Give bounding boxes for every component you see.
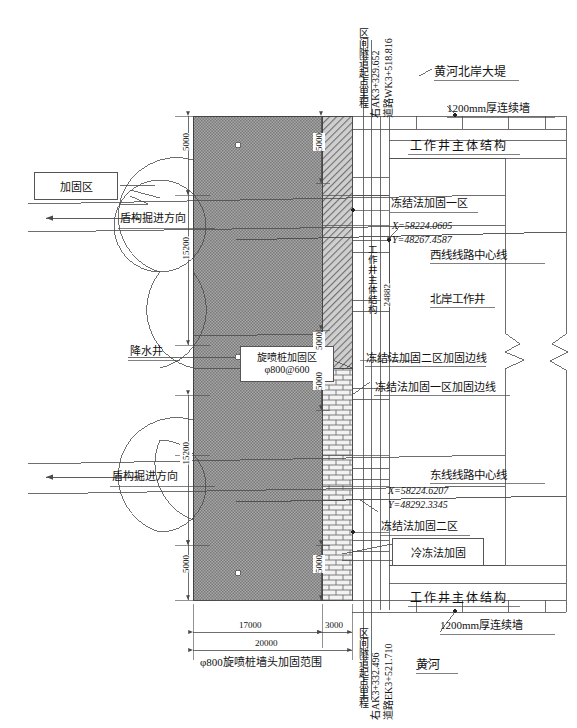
callout-freeze-method-label: 冷冻法加固: [411, 544, 466, 560]
label-north-bank-shaft: 北岸工作井: [430, 293, 485, 305]
chainage-top-line1: 区间隧道起点里程: [357, 28, 368, 118]
chainage-bottom-line2: 右AK3+332.496: [371, 628, 382, 720]
label-shaft-main-structure-vertical: 工作井主体结构: [366, 245, 376, 335]
label-shield-direction-lower: 盾构掘进方向: [112, 471, 178, 483]
label-yellow-river: 黄河: [416, 659, 440, 672]
dim-right-5000-2: 5000: [313, 332, 325, 350]
jet-grouting-zone-line2: φ800@600: [265, 364, 310, 377]
label-west-line-center: 西线线路中心线: [430, 249, 507, 261]
dim-shaft-width-24882: 24882: [381, 284, 393, 307]
chainage-top-line3: 道路WK3+518.816: [384, 22, 395, 118]
dim-right-5000-3: 5000: [313, 372, 325, 390]
callout-reinforce-zone[interactable]: 加固区: [34, 172, 118, 200]
label-freeze-zone-two: 冻结法加固二区: [381, 521, 458, 533]
label-shaft-main-structure-bottom: 工作井主体结构: [410, 592, 508, 605]
label-dewatering-well: 降水井: [130, 346, 163, 358]
label-west-line-coord-x: X=58224.0605: [392, 221, 452, 232]
label-shield-direction-upper: 盾构掘进方向: [120, 213, 186, 225]
dim-left-upper-15200: 15200: [180, 237, 192, 260]
dim-bottom-20000: 20000: [254, 638, 279, 648]
label-diaphragm-wall-bottom: 1200mm厚连续墙: [440, 620, 523, 632]
chainage-bottom-line3: 道路EK3+521.710: [384, 624, 395, 720]
dim-bottom-17000: 17000: [238, 620, 263, 630]
label-west-line-coord-y: Y=48267.4587: [392, 235, 452, 246]
chainage-top-line2: 右AK3+329.652: [371, 28, 382, 118]
engineering-drawing-canvas: 加固区 冷冻法加固 旋喷桩加固区 φ800@600 盾构掘进方向 盾构掘进方向 …: [0, 0, 577, 728]
dim-bottom-note: φ800旋喷桩墙头加固范围: [200, 657, 322, 669]
label-freeze-zone-two-boundary: 冻结法加固二区加固边线: [366, 353, 487, 365]
label-east-line-coord-y: Y=48292.3345: [388, 500, 448, 511]
dim-bottom-3000: 3000: [324, 620, 344, 630]
label-east-line-center: 东线线路中心线: [430, 469, 507, 481]
chainage-bottom-line1: 区间隧道起点里程: [357, 628, 368, 720]
label-diaphragm-wall-top: 1200mm厚连续墙: [447, 103, 530, 115]
callout-reinforce-zone-label: 加固区: [60, 178, 93, 194]
dim-left-bottom-5000: 5000: [180, 555, 192, 573]
dim-right-5000-1: 5000: [313, 133, 325, 151]
label-yellow-river-north-dike: 黄河北岸大堤: [434, 66, 506, 79]
label-east-line-coord-x: X=58224.6207: [388, 486, 448, 497]
callout-freeze-method[interactable]: 冷冻法加固: [392, 538, 484, 566]
dim-left-lower-15200: 15200: [180, 442, 192, 465]
jet-grouting-zone-line1: 旋喷桩加固区: [257, 352, 317, 365]
dim-left-top-5000: 5000: [180, 133, 192, 151]
label-freeze-zone-one-boundary: 冻结法加固一区加固边线: [375, 382, 496, 394]
dim-right-5000-4: 5000: [313, 555, 325, 573]
label-freeze-zone-one: 冻结法加固一区: [391, 198, 468, 210]
label-shaft-main-structure-top: 工作井主体结构: [410, 140, 508, 153]
